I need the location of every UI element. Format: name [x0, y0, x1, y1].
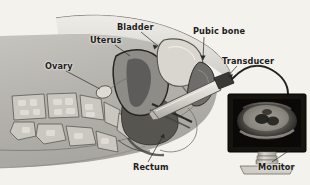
label-ovary: Ovary	[45, 62, 73, 70]
transvaginal-ultrasound-diagram: Bladder Uterus Ovary Pubic bone Transduc…	[0, 0, 310, 185]
label-uterus: Uterus	[90, 36, 121, 44]
label-transducer: Transducer	[222, 57, 274, 65]
label-pubic-bone: Pubic bone	[193, 27, 245, 35]
label-bladder: Bladder	[117, 23, 154, 31]
label-rectum: Rectum	[133, 163, 169, 171]
label-monitor: Monitor	[258, 163, 295, 171]
sonogram-image	[237, 102, 297, 140]
diagram-canvas	[0, 0, 310, 185]
